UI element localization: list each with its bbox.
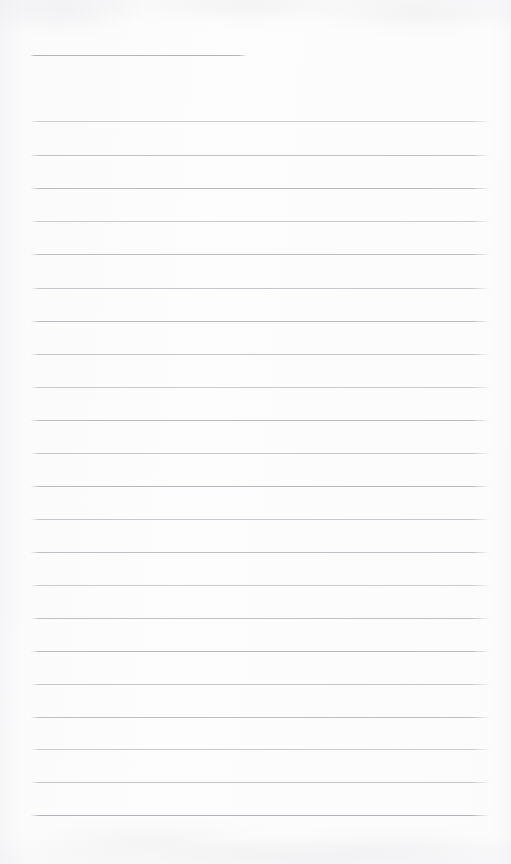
ruled-line-partial: [30, 55, 247, 56]
ruled-line: [30, 815, 490, 816]
paper-texture-overlay: [0, 0, 511, 864]
ruled-line: [30, 288, 490, 289]
ruled-line: [30, 519, 490, 520]
ruled-line: [30, 585, 490, 586]
ruled-line: [30, 254, 490, 255]
ruled-line: [30, 486, 490, 487]
ruled-line: [30, 552, 490, 553]
ruled-line: [30, 651, 490, 652]
ruled-line: [30, 717, 490, 718]
ruled-line: [30, 749, 490, 750]
ruled-line: [30, 121, 490, 122]
ruled-line: [30, 453, 490, 454]
ruled-line: [30, 618, 490, 619]
scanned-page: [0, 0, 511, 864]
ruled-line: [30, 354, 490, 355]
ruled-line: [30, 420, 490, 421]
ruled-line: [30, 188, 490, 189]
ruled-line: [30, 321, 490, 322]
ruled-line: [30, 387, 490, 388]
ruled-line: [30, 684, 490, 685]
ruled-line: [30, 155, 490, 156]
page-edge-vignette: [0, 0, 511, 864]
ruled-line: [30, 782, 490, 783]
ruled-line: [30, 221, 490, 222]
